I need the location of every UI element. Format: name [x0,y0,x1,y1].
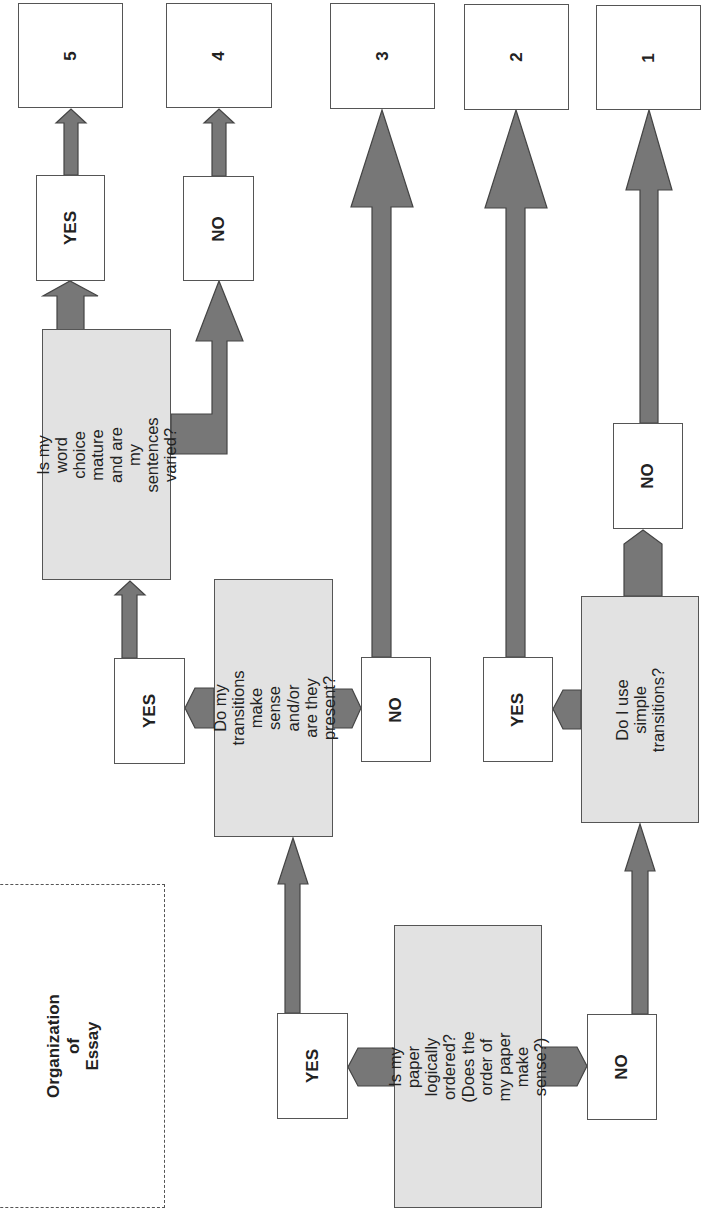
answer-box-transitions-yes: YES [114,658,185,764]
answer-box-simple-yes: YES [483,657,553,762]
arrow-wordchoice-to-no [171,281,243,454]
answer-box-logical-no: NO [587,1014,657,1120]
answer-box-logical-yes: YES [277,1013,348,1119]
answer-label: YES [508,692,528,726]
answer-box-transitions-no: NO [361,657,431,762]
question-text: Is my word choice mature and are my sent… [34,417,179,492]
score-box-2: 2 [464,4,569,110]
arrow-yes-to-wordchoice [115,581,145,658]
answer-label: NO [386,697,406,723]
score-box-5: 5 [18,3,123,108]
score-label: 3 [373,51,393,60]
arrow-yes-to-transitions [278,838,308,1013]
connector-simple-no [624,530,662,596]
answer-box-wordchoice-no: NO [183,176,254,281]
arrow-no-to-4 [204,109,234,176]
answer-label: YES [61,211,81,245]
score-box-4: 4 [166,3,272,108]
question-text: Do my transitions make sense and/or are … [210,670,337,745]
arrow-yes-to-5 [56,109,86,175]
answer-label: NO [612,1054,632,1080]
question-logical-order: Is my paper logically ordered? (Does the… [394,925,542,1208]
score-box-1: 1 [596,5,701,110]
question-text: Do I use simple transitions? [613,667,667,751]
question-transitions: Do my transitions make sense and/or are … [214,579,333,837]
answer-label: NO [209,216,229,242]
connector-simple-yes [553,690,581,729]
score-label: 5 [61,51,81,60]
answer-box-simple-no: NO [613,423,683,529]
score-label: 4 [209,51,229,60]
arrow-no-to-1 [626,110,672,423]
answer-label: YES [140,694,160,728]
question-word-choice: Is my word choice mature and are my sent… [42,329,171,580]
score-box-3: 3 [330,3,435,109]
arrow-no-to-simple [625,824,655,1014]
score-label: 2 [507,52,527,61]
arrow-wordchoice-to-yes [43,281,98,330]
arrow-yes-to-2 [485,110,547,657]
arrow-no-to-3 [351,110,413,657]
score-label: 1 [639,53,659,62]
answer-label: NO [638,463,658,489]
question-simple-transitions: Do I use simple transitions? [581,596,699,823]
answer-label: YES [303,1049,323,1083]
question-text: Is my paper logically ordered? (Does the… [386,1030,549,1103]
answer-box-wordchoice-yes: YES [36,175,105,281]
